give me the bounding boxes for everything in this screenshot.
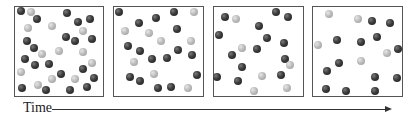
dark-particle bbox=[30, 44, 38, 52]
light-particle bbox=[250, 87, 258, 95]
dark-particle bbox=[371, 87, 379, 95]
dark-particle bbox=[71, 37, 79, 45]
light-particle bbox=[48, 22, 56, 30]
dark-particle bbox=[154, 84, 162, 92]
dark-particle bbox=[373, 33, 381, 41]
light-particle bbox=[121, 27, 129, 35]
light-particle bbox=[79, 27, 87, 35]
dark-particle bbox=[79, 65, 87, 73]
light-particle bbox=[71, 75, 79, 83]
dark-particle bbox=[66, 86, 74, 94]
dark-particle bbox=[135, 19, 143, 27]
dark-particle bbox=[86, 15, 94, 23]
dark-particle bbox=[393, 74, 401, 82]
light-particle bbox=[357, 57, 365, 65]
light-particle bbox=[17, 68, 25, 76]
dark-particle bbox=[368, 17, 376, 25]
light-particle bbox=[238, 44, 246, 52]
dark-particle bbox=[23, 37, 31, 45]
dark-particle bbox=[386, 19, 394, 27]
time-arrow-line bbox=[52, 109, 386, 110]
dark-particle bbox=[174, 46, 182, 54]
dark-particle bbox=[31, 61, 39, 69]
light-particle bbox=[314, 41, 322, 49]
dark-particle bbox=[74, 18, 82, 26]
time-arrow-head-icon bbox=[385, 106, 392, 112]
light-particle bbox=[184, 84, 192, 92]
dark-particle bbox=[124, 42, 132, 50]
dark-particle bbox=[167, 83, 175, 91]
dark-particle bbox=[63, 9, 71, 17]
light-particle bbox=[383, 49, 391, 57]
dark-particle bbox=[253, 45, 261, 53]
dark-particle bbox=[213, 73, 221, 81]
dark-particle bbox=[33, 15, 41, 23]
light-particle bbox=[157, 37, 165, 45]
light-particle bbox=[130, 58, 138, 66]
light-particle bbox=[88, 59, 96, 67]
dark-particle bbox=[148, 55, 156, 63]
light-particle bbox=[38, 50, 46, 58]
dark-particle bbox=[357, 38, 365, 46]
dark-particle bbox=[90, 74, 98, 82]
dark-particle bbox=[322, 85, 330, 93]
dark-particle bbox=[277, 71, 285, 79]
light-particle bbox=[325, 10, 333, 18]
dark-particle bbox=[83, 83, 91, 91]
dark-particle bbox=[42, 86, 50, 94]
dark-particle bbox=[21, 55, 29, 63]
dark-particle bbox=[173, 25, 181, 33]
dark-particle bbox=[323, 67, 331, 75]
dark-particle bbox=[263, 34, 271, 42]
dark-particle bbox=[221, 13, 229, 21]
light-particle bbox=[354, 15, 362, 23]
light-particle bbox=[232, 15, 240, 23]
dark-particle bbox=[193, 71, 201, 79]
dark-particle bbox=[136, 47, 144, 55]
dark-particle bbox=[136, 77, 144, 85]
light-particle bbox=[55, 47, 63, 55]
dark-particle bbox=[342, 87, 350, 95]
dark-particle bbox=[152, 14, 160, 22]
dark-particle bbox=[333, 36, 341, 44]
light-particle bbox=[190, 8, 198, 16]
light-particle bbox=[286, 61, 294, 69]
dark-particle bbox=[188, 51, 196, 59]
light-particle bbox=[48, 75, 56, 83]
light-particle bbox=[258, 72, 266, 80]
dark-particle bbox=[57, 70, 65, 78]
dark-particle bbox=[284, 13, 292, 21]
dark-particle bbox=[17, 7, 25, 15]
light-particle bbox=[283, 84, 291, 92]
light-particle bbox=[24, 24, 32, 32]
light-particle bbox=[150, 70, 158, 78]
dark-particle bbox=[272, 8, 280, 16]
dark-particle bbox=[163, 54, 171, 62]
light-particle bbox=[27, 8, 35, 16]
dark-particle bbox=[394, 45, 402, 53]
dark-particle bbox=[280, 39, 288, 47]
dark-particle bbox=[228, 51, 236, 59]
dark-particle bbox=[170, 8, 178, 16]
dark-particle bbox=[335, 59, 343, 67]
light-particle bbox=[79, 48, 87, 56]
light-particle bbox=[34, 81, 42, 89]
light-particle bbox=[187, 37, 195, 45]
dark-particle bbox=[18, 84, 26, 92]
dark-particle bbox=[115, 8, 123, 16]
light-particle bbox=[145, 29, 153, 37]
dark-particle bbox=[371, 73, 379, 81]
dark-particle bbox=[255, 22, 263, 30]
dark-particle bbox=[126, 73, 134, 81]
dark-particle bbox=[45, 60, 53, 68]
dark-particle bbox=[215, 31, 223, 39]
time-axis-label: Time bbox=[23, 101, 52, 115]
dark-particle bbox=[238, 63, 246, 71]
dark-particle bbox=[234, 77, 242, 85]
dark-particle bbox=[88, 35, 96, 43]
dark-particle bbox=[62, 33, 70, 41]
